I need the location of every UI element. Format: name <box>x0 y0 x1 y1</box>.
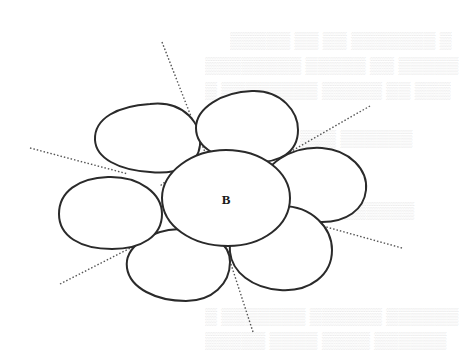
cell-b: B <box>162 150 290 246</box>
cell-b-label: B <box>222 192 231 207</box>
tangent-line-right-upper <box>290 106 370 152</box>
cell-left <box>59 177 162 249</box>
